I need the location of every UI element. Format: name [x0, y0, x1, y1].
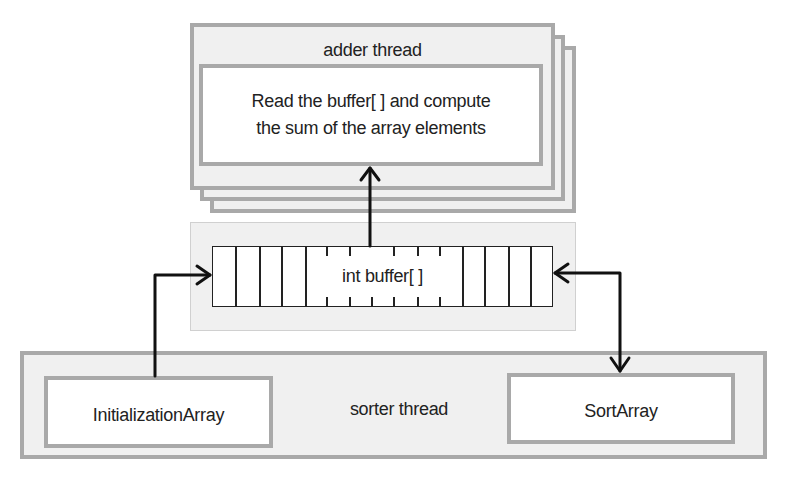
figure-caption-clipped — [0, 474, 789, 483]
adder-task-line-2: the sum of the array elements — [203, 118, 539, 139]
initialization-array-box: InitializationArray — [44, 376, 273, 448]
adder-task-line-1: Read the buffer[ ] and compute — [203, 91, 539, 112]
array-tick — [371, 297, 373, 306]
array-tick — [417, 297, 419, 306]
sorter-thread-title: sorter thread — [324, 399, 474, 420]
adder-task-box: Read the buffer[ ] and compute the sum o… — [199, 64, 543, 166]
buffer-label: int buffer[ ] — [213, 266, 552, 287]
array-tick — [439, 297, 441, 306]
array-tick — [393, 247, 395, 256]
sort-array-box: SortArray — [507, 373, 735, 444]
array-tick — [326, 247, 328, 256]
array-tick — [349, 247, 351, 256]
array-tick — [393, 297, 395, 306]
array-tick — [349, 297, 351, 306]
array-tick — [417, 247, 419, 256]
sort-array-label: SortArray — [511, 401, 731, 422]
buffer-array: int buffer[ ] — [212, 246, 553, 307]
initialization-array-label: InitializationArray — [48, 405, 269, 426]
array-tick — [326, 297, 328, 306]
adder-thread-title: adder thread — [194, 40, 551, 61]
array-tick — [439, 247, 441, 256]
